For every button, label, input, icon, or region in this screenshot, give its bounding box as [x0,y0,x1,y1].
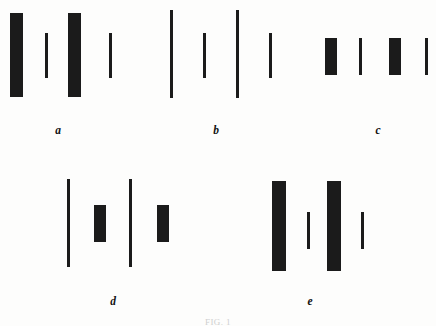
bar-e-1 [272,181,286,271]
group-label-b: b [213,125,219,137]
group-label-c: c [375,125,380,137]
bar-a-1 [10,13,23,97]
bar-c-4 [425,38,428,75]
group-label-e: e [307,296,312,308]
group-label-d: d [110,296,116,308]
bar-a-4 [109,33,112,78]
bar-d-1 [67,179,70,267]
bar-e-2 [307,212,310,249]
bar-a-2 [45,33,48,78]
bar-d-4 [157,205,169,242]
bar-c-2 [359,38,362,75]
bar-b-4 [269,33,272,78]
bar-b-2 [203,33,206,78]
figure-canvas: abcde [0,0,436,326]
bar-c-1 [325,38,337,75]
group-label-a: a [55,125,61,137]
figure-caption: FIG. 1 [205,317,231,326]
bar-d-3 [129,179,132,267]
bar-b-1 [170,10,173,98]
bar-d-2 [94,205,106,242]
bar-c-3 [389,38,401,75]
bar-a-3 [68,13,81,97]
bar-b-3 [236,10,239,98]
bar-e-3 [327,181,341,271]
bar-e-4 [361,212,364,249]
